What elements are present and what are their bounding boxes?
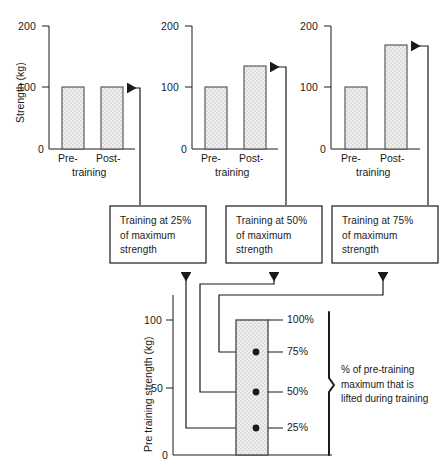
- chart-25-cat-post: Post-: [96, 152, 121, 164]
- box-50-line3: strength: [236, 243, 326, 258]
- chart-50-ytick-200: 200: [161, 20, 179, 32]
- marker-label-25: 25%: [287, 421, 308, 433]
- brace-note: % of pre-training maximum that is lifted…: [341, 363, 445, 407]
- chart-25-cat-pre: Pre-: [58, 152, 78, 164]
- chart-75-ytick-0: 0: [320, 143, 326, 155]
- chart-50-cat-pre: Pre-: [201, 152, 221, 164]
- box-25-line3: strength: [120, 243, 210, 258]
- brace: [329, 312, 334, 455]
- marker-label-100: 100%: [287, 313, 314, 325]
- chart-75-bar-pre: [345, 87, 367, 149]
- chart-25-cat-training: training: [72, 166, 106, 178]
- chart-pretraining-ytick-0: 0: [162, 449, 168, 461]
- box-75-line1: Training at 75%: [342, 214, 438, 229]
- chart-pretraining-bar: [236, 320, 268, 455]
- box-50-text: Training at 50% of maximum strength: [236, 214, 326, 258]
- chart-75-ytick-200: 200: [300, 20, 318, 32]
- chart-75-cat-training: training: [356, 166, 390, 178]
- chart-25-ylabel: Strength (kg): [14, 62, 26, 123]
- chart-50-cat-post: Post-: [239, 152, 264, 164]
- brace-note-line3: lifted during training: [341, 392, 445, 407]
- chart-50-ytick-0: 0: [181, 143, 187, 155]
- box-50-line2: of maximum: [236, 229, 326, 244]
- chart-50-ytick-100: 100: [161, 81, 179, 93]
- marker-label-50: 50%: [287, 385, 308, 397]
- chart-pretraining-ylabel: Pre training strength (kg): [142, 336, 154, 452]
- brace-note-line2: maximum that is: [341, 378, 445, 393]
- chart-25-ytick-200: 200: [18, 20, 36, 32]
- chart-25-bar-pre: [62, 87, 84, 149]
- chart-50-cat-training: training: [215, 166, 249, 178]
- chart-75-cat-post: Post-: [380, 152, 405, 164]
- box-25-text: Training at 25% of maximum strength: [120, 214, 210, 258]
- box-75-line2: of maximum: [342, 229, 438, 244]
- marker-label-75: 75%: [287, 345, 308, 357]
- box-50-line1: Training at 50%: [236, 214, 326, 229]
- connector-box25-to-chart25: [127, 88, 140, 205]
- box-25-line2: of maximum: [120, 229, 210, 244]
- connector-box50-to-chart50: [270, 67, 286, 205]
- chart-75-bar-post: [385, 45, 407, 149]
- chart-pretraining-ytick-100: 100: [144, 314, 162, 326]
- chart-50-bar-pre: [205, 87, 227, 149]
- chart-25-bar-post: [101, 87, 123, 149]
- box-25-line1: Training at 25%: [120, 214, 210, 229]
- chart-75-ytick-100: 100: [300, 81, 318, 93]
- chart-50-bar-post: [244, 66, 266, 149]
- figure-canvas: 200 100 0 Strength (kg) Pre- Post- train…: [0, 0, 448, 476]
- box-75-line3: strength: [342, 243, 438, 258]
- chart-25-ytick-0: 0: [38, 143, 44, 155]
- box-75-text: Training at 75% of maximum strength: [342, 214, 438, 258]
- chart-75-cat-pre: Pre-: [341, 152, 361, 164]
- connector-box75-to-chart75: [411, 46, 428, 205]
- brace-note-line1: % of pre-training: [341, 363, 445, 378]
